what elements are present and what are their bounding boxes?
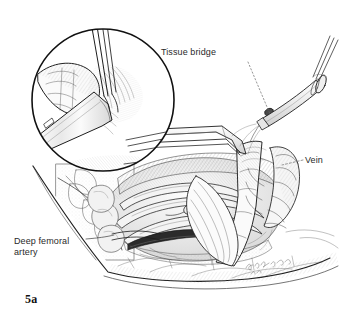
handle-shafts <box>313 36 338 81</box>
retractor-handle-right <box>257 36 338 130</box>
magnified-inset <box>30 0 190 182</box>
figure-caption: 5a <box>25 292 37 307</box>
label-vein: Vein <box>305 155 323 166</box>
illustration-ink <box>30 0 338 289</box>
figure-container: Tissue bridge Vein Deep femoral artery 5… <box>0 0 349 321</box>
label-deep-femoral-artery: Deep femoral artery <box>14 236 69 257</box>
label-tissue-bridge: Tissue bridge <box>161 47 216 58</box>
tissue-bridge-leader <box>248 62 270 114</box>
